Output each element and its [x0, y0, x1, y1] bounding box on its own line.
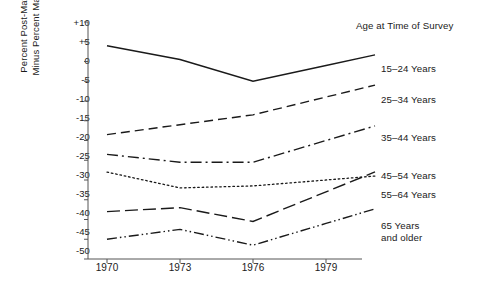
- plot-area: [0, 0, 480, 292]
- series-line-35-44-years: [107, 126, 375, 162]
- series-line-45-54-years: [107, 172, 375, 188]
- series-line-25-34-years: [107, 85, 375, 134]
- series-line-15-24-years: [107, 46, 375, 82]
- chart-figure: Percent Post-Materialist Minus Percent M…: [0, 0, 480, 292]
- series-line-65-years-and-older: [107, 209, 375, 245]
